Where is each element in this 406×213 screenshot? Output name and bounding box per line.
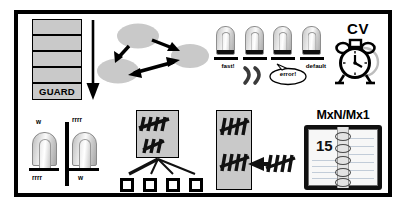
tally-group-three — [143, 139, 164, 153]
notebook-ring — [335, 156, 351, 165]
lock-item: default — [302, 26, 324, 55]
mirror-left-top-label: w — [36, 118, 41, 125]
error-bubble-label: error! — [268, 70, 308, 77]
lock-icon — [245, 26, 264, 55]
lock-caption: fast! — [213, 62, 243, 69]
guard-stack-row — [32, 35, 82, 51]
mirror-lock-left — [32, 132, 57, 166]
graph-node-top — [117, 24, 159, 49]
lock-base — [302, 50, 321, 55]
cv-panel: CV — [330, 20, 386, 88]
fanout-leaf — [120, 178, 134, 192]
fanout-leaf — [189, 178, 203, 192]
lock-icon — [32, 132, 57, 166]
lock-shackle — [39, 139, 51, 168]
tally-group-inside-top — [220, 118, 249, 135]
lock-icon — [216, 26, 235, 55]
lock-base — [273, 50, 292, 55]
notebook-icon: 15 — [304, 125, 382, 190]
lock-underline — [243, 57, 267, 60]
lock-base — [245, 50, 264, 55]
tally-fanout-panel — [124, 110, 214, 192]
lock-icon — [273, 26, 292, 55]
lock-shackle — [79, 139, 91, 168]
snore-icon — [242, 66, 268, 86]
tally-group-incoming — [266, 155, 295, 172]
lock-underline — [271, 57, 295, 60]
tally-box-svg — [212, 110, 298, 192]
tally-group-inside-bottom — [220, 154, 249, 171]
node-graph-svg — [96, 18, 206, 84]
lock-base — [216, 50, 235, 55]
fanout-connectors — [129, 159, 195, 174]
guard-stack-row — [32, 51, 82, 67]
lock-underline — [69, 168, 99, 171]
notebook-ring — [335, 132, 351, 141]
lock-item — [245, 26, 267, 55]
mirror-locks-panel: w rrrr rrrr w — [28, 116, 106, 192]
guard-label: GUARD — [32, 83, 82, 100]
fanout-leaf — [143, 178, 157, 192]
mirror-right-bottom-label: w — [78, 174, 83, 181]
lock-item — [273, 26, 295, 55]
notebook-ring — [335, 178, 351, 187]
node-graph-panel — [96, 18, 206, 84]
notebook-label: MxN/Mx1 — [298, 108, 388, 122]
tally-box-panel — [212, 110, 298, 192]
lock-underline — [300, 57, 324, 60]
notebook-ring — [335, 168, 351, 177]
fanout-leaf — [166, 178, 180, 192]
lock-icon — [72, 132, 97, 166]
diagram-canvas: GUARD — [0, 0, 406, 213]
graph-edge-top-right — [152, 40, 180, 51]
mirror-divider-bar — [65, 122, 69, 186]
alarm-clock-icon — [330, 38, 386, 88]
notebook-panel: MxN/Mx1 15 — [298, 108, 388, 194]
notebook-ring — [335, 144, 351, 153]
notebook-page-number: 15 — [316, 137, 333, 154]
lock-icon — [302, 26, 321, 55]
guard-stack-row — [32, 19, 82, 35]
mirror-left-bottom-label: rrrr — [32, 174, 42, 181]
mirror-right-top-label: rrrr — [72, 116, 82, 123]
lock-underline — [214, 57, 238, 60]
graph-node-left — [97, 59, 139, 84]
mirror-lock-right — [72, 132, 97, 166]
lock-row-panel: fast! default — [216, 26, 324, 88]
lock-underline — [29, 168, 59, 171]
tally-group-five — [139, 117, 169, 131]
guard-stack-panel: GUARD — [32, 19, 82, 100]
guard-stack-row — [32, 67, 82, 83]
cv-label: CV — [330, 20, 386, 37]
lock-item: fast! — [216, 26, 238, 55]
